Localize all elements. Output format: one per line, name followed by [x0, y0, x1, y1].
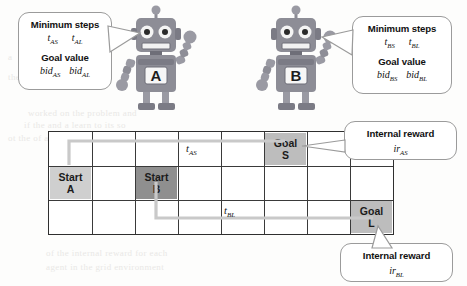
callout-tail-agent-a	[0, 0, 467, 286]
figure-canvas: worked on the problem andif the and a le…	[0, 0, 467, 286]
